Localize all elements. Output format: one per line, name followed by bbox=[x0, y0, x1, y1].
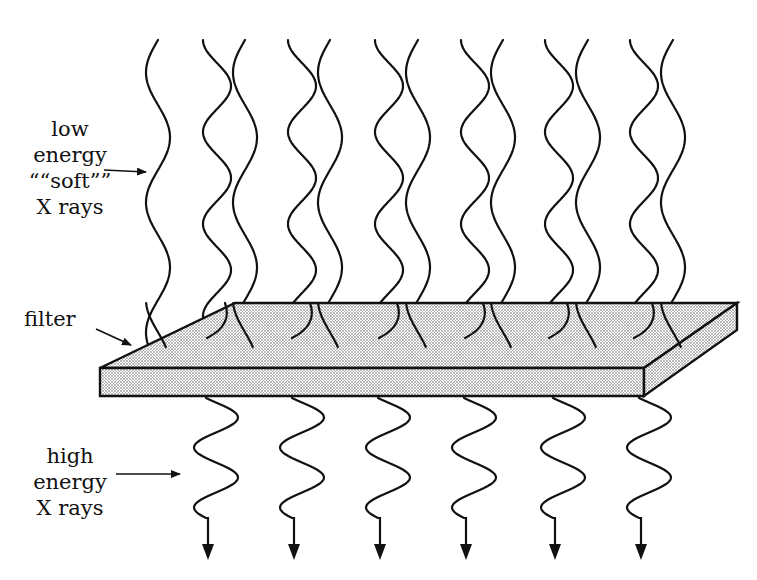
label-high-energy-xrays: high energy X rays bbox=[20, 443, 120, 521]
down-arrow-icon bbox=[202, 544, 214, 560]
mixed-xray-wave bbox=[288, 40, 316, 330]
down-arrow-icon bbox=[635, 544, 647, 560]
down-arrow-icon bbox=[460, 544, 472, 560]
soft-xray-wave bbox=[318, 40, 342, 344]
high-energy-xray-wave bbox=[194, 398, 238, 552]
high-energy-xray-wave bbox=[627, 398, 671, 552]
filter-slab bbox=[100, 303, 737, 396]
label-line: X rays bbox=[20, 194, 120, 220]
soft-xray-wave bbox=[491, 40, 515, 344]
label-line: high bbox=[20, 443, 120, 469]
filter-top-face bbox=[100, 303, 737, 368]
label-line: energy bbox=[20, 469, 120, 495]
transmitted-arrowheads bbox=[202, 544, 647, 560]
soft-xray-wave bbox=[661, 40, 685, 344]
soft-xray-wave bbox=[146, 40, 170, 344]
soft-xray-wave bbox=[233, 40, 257, 344]
label-line: filter bbox=[24, 306, 104, 332]
down-arrow-icon bbox=[288, 544, 300, 560]
incident-waves bbox=[146, 40, 685, 344]
label-line: ““soft”” bbox=[20, 168, 120, 194]
soft-xray-wave bbox=[406, 40, 430, 344]
label-line: X rays bbox=[20, 495, 120, 521]
label-filter: filter bbox=[24, 306, 104, 332]
down-arrow-icon bbox=[374, 544, 386, 560]
down-arrow-icon bbox=[549, 544, 561, 560]
high-energy-xray-wave bbox=[366, 398, 410, 552]
label-line: energy bbox=[20, 142, 120, 168]
high-energy-xray-wave bbox=[541, 398, 585, 552]
high-energy-xray-wave bbox=[280, 398, 324, 552]
soft-xray-wave bbox=[576, 40, 600, 344]
high-energy-xray-wave bbox=[452, 398, 496, 552]
mixed-xray-wave bbox=[203, 40, 231, 330]
label-line: low bbox=[20, 116, 120, 142]
mixed-xray-wave bbox=[545, 40, 573, 330]
transmitted-waves bbox=[194, 398, 671, 552]
filter-front-face bbox=[100, 368, 644, 396]
mixed-xray-wave bbox=[375, 40, 403, 330]
mixed-xray-wave bbox=[630, 40, 658, 330]
mixed-xray-wave bbox=[461, 40, 489, 330]
label-low-energy-soft-xrays: low energy ““soft”” X rays bbox=[20, 116, 120, 220]
